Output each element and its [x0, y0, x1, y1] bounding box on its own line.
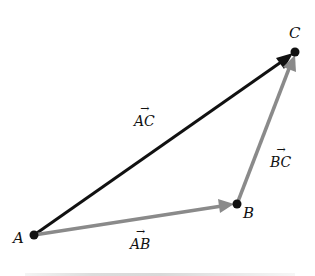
vector-ab-line [34, 206, 222, 235]
vector-ab-text: AB [130, 236, 150, 252]
diagram-canvas [0, 0, 315, 276]
vector-ab-arrowhead [218, 199, 234, 213]
point-a [30, 231, 39, 240]
label-point-b: B [243, 206, 254, 221]
label-vector-bc: → BC [270, 147, 291, 169]
label-point-a: A [13, 231, 24, 246]
vector-triangle-diagram: A B C → AC → AB → BC [0, 0, 315, 276]
vector-bc-text: BC [270, 154, 291, 170]
point-c [291, 48, 300, 57]
label-vector-ab: → AB [130, 229, 150, 251]
label-point-c: C [289, 26, 300, 41]
vector-ac-text: AC [134, 113, 155, 129]
point-b [233, 200, 242, 209]
label-vector-ac: → AC [134, 106, 155, 128]
